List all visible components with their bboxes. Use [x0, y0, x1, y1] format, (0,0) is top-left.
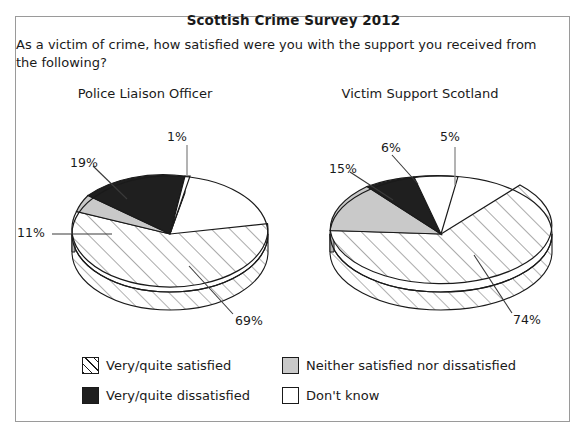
hatch-swatch-icon: [82, 357, 99, 374]
pie-right-label-dissatisfied: 6%: [381, 142, 401, 155]
legend: Very/quite satisfied Neither satisfied n…: [82, 350, 542, 410]
legend-item-very-quite-satisfied[interactable]: Very/quite satisfied: [82, 357, 282, 374]
gray-swatch-icon: [282, 357, 299, 374]
legend-label-very-quite-dissatisfied: Very/quite dissatisfied: [106, 389, 250, 402]
pie-left-label-dont-know: 1%: [167, 131, 187, 144]
dark-swatch-icon: [82, 387, 99, 404]
chart-title-victim-support-scotland: Victim Support Scotland: [290, 86, 550, 101]
legend-row: Very/quite satisfied Neither satisfied n…: [82, 350, 542, 380]
screenshot-root: Scottish Crime Survey 2012 As a victim o…: [0, 0, 587, 444]
pie-right-label-neither: 15%: [329, 163, 357, 176]
legend-label-dont-know: Don't know: [306, 389, 379, 402]
pie-left-label-neither: 11%: [17, 227, 45, 240]
legend-item-very-quite-dissatisfied[interactable]: Very/quite dissatisfied: [82, 387, 282, 404]
white-swatch-icon: [282, 387, 299, 404]
pie-right-label-dont-know: 5%: [440, 131, 460, 144]
page-title: Scottish Crime Survey 2012: [0, 12, 587, 28]
legend-label-neither-satisfied-nor-dissatisfied: Neither satisfied nor dissatisfied: [306, 359, 516, 372]
survey-question: As a victim of crime, how satisfied were…: [16, 36, 540, 71]
legend-row: Very/quite dissatisfied Don't know: [82, 380, 542, 410]
chart-title-police-liaison-officer: Police Liaison Officer: [0, 86, 290, 101]
legend-item-neither-satisfied-nor-dissatisfied[interactable]: Neither satisfied nor dissatisfied: [282, 357, 542, 374]
pie-left-label-satisfied: 69%: [235, 315, 263, 328]
pie-left-label-dissatisfied: 19%: [70, 157, 98, 170]
pie-right-label-satisfied: 74%: [513, 314, 541, 327]
cropped-artifact: [0, 0, 587, 11]
legend-label-very-quite-satisfied: Very/quite satisfied: [106, 359, 231, 372]
legend-item-dont-know[interactable]: Don't know: [282, 387, 542, 404]
